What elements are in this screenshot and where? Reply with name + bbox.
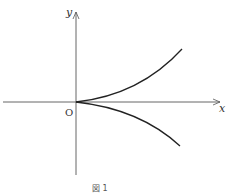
origin-label: O — [65, 107, 73, 118]
x-axis-label: x — [219, 102, 226, 115]
curve-diagram: y x O 図 1 — [0, 0, 233, 193]
upper-curve — [76, 49, 182, 102]
y-axis-label: y — [65, 6, 73, 19]
figure-caption: 図 1 — [92, 184, 108, 193]
lower-curve — [76, 102, 180, 146]
